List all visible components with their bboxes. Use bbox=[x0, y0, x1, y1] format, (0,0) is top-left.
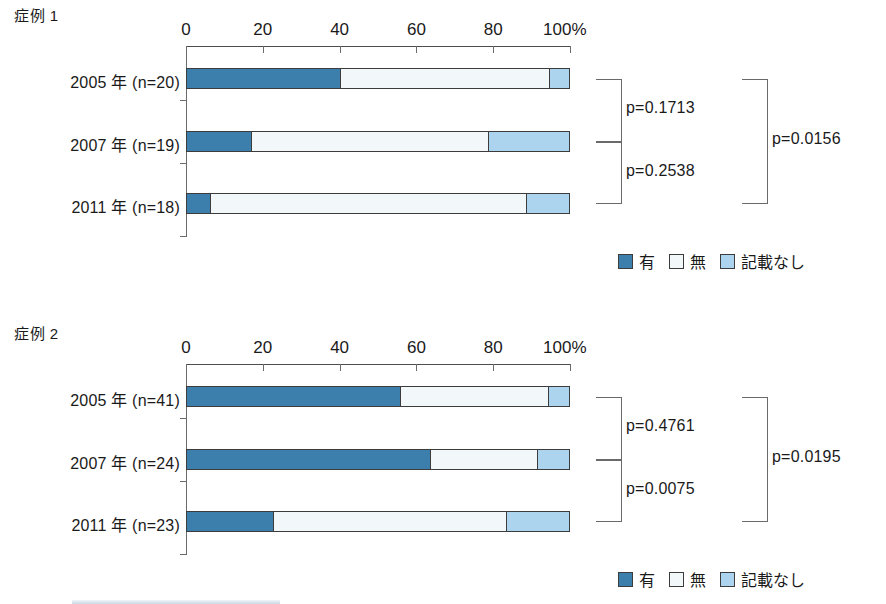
stacked-bar bbox=[186, 449, 570, 470]
x-axis-tick-label: 40 bbox=[330, 20, 349, 40]
category-label: 2011 年 (n=18) bbox=[4, 194, 180, 218]
bar-segment-present bbox=[187, 512, 273, 531]
legend-swatch-unstated bbox=[720, 572, 735, 587]
legend-label: 無 bbox=[690, 567, 706, 591]
x-axis-line bbox=[186, 46, 570, 47]
plot-area: 020406080100%2005 年 (n=41)2007 年 (n=24)2… bbox=[0, 318, 886, 604]
x-axis-tick bbox=[416, 364, 417, 371]
pvalue-bracket-overall bbox=[742, 79, 768, 204]
legend-swatch-absent bbox=[669, 254, 684, 269]
bar-segment-absent bbox=[430, 450, 539, 469]
x-axis-tick-labels: 020406080100% bbox=[186, 20, 570, 40]
bar-segment-unstated bbox=[527, 194, 569, 213]
x-axis-tick bbox=[493, 46, 494, 53]
x-axis-tick-label: 80 bbox=[484, 338, 503, 358]
bar-segment-absent bbox=[251, 132, 489, 151]
bar-segment-unstated bbox=[549, 387, 569, 406]
category-label: 2007 年 (n=24) bbox=[4, 450, 180, 474]
x-axis-tick-label: 60 bbox=[407, 338, 426, 358]
legend-item: 無 bbox=[669, 567, 706, 591]
x-axis-tick-label: 40 bbox=[330, 338, 349, 358]
legend-item: 記載なし bbox=[720, 249, 805, 273]
legend-item: 有 bbox=[618, 249, 655, 273]
bar-segment-absent bbox=[273, 512, 508, 531]
y-axis-tick bbox=[180, 481, 187, 482]
chart-panel-1: 症例 1 020406080100%2005 年 (n=20)2007 年 (n… bbox=[0, 0, 886, 300]
pvalue-label-overall: p=0.0156 bbox=[772, 130, 841, 148]
y-axis-tick bbox=[180, 163, 187, 164]
legend-item: 有 bbox=[618, 567, 655, 591]
category-label: 2011 年 (n=23) bbox=[4, 512, 180, 536]
legend-swatch-absent bbox=[669, 572, 684, 587]
bar-segment-unstated bbox=[489, 132, 569, 151]
x-axis-tick bbox=[570, 364, 571, 371]
bar-segment-unstated bbox=[538, 450, 569, 469]
x-axis-tick-label: 100% bbox=[543, 338, 586, 358]
stacked-bar bbox=[186, 511, 570, 532]
bar-segment-unstated bbox=[550, 69, 569, 88]
x-axis-tick-label: 20 bbox=[253, 338, 272, 358]
legend: 有無記載なし bbox=[618, 249, 805, 273]
legend-swatch-unstated bbox=[720, 254, 735, 269]
x-axis-tick-label: 100% bbox=[543, 20, 586, 40]
x-axis-tick-label: 80 bbox=[484, 20, 503, 40]
legend-label: 有 bbox=[639, 249, 655, 273]
bar-segment-present bbox=[187, 194, 210, 213]
x-axis-tick bbox=[340, 364, 341, 371]
category-label: 2007 年 (n=19) bbox=[4, 132, 180, 156]
x-axis-tick bbox=[416, 46, 417, 53]
x-axis-tick-label: 60 bbox=[407, 20, 426, 40]
bar-segment-present bbox=[187, 387, 400, 406]
bar-segment-absent bbox=[210, 194, 527, 213]
y-axis-tick bbox=[180, 418, 187, 419]
legend-item: 無 bbox=[669, 249, 706, 273]
legend-item: 記載なし bbox=[720, 567, 805, 591]
plot-area: 020406080100%2005 年 (n=20)2007 年 (n=19)2… bbox=[0, 0, 886, 300]
pvalue-bracket-bottom bbox=[596, 460, 622, 522]
x-axis-tick-label: 20 bbox=[253, 20, 272, 40]
pvalue-bracket-overall bbox=[742, 397, 768, 522]
chart-panel-2: 症例 2 020406080100%2005 年 (n=41)2007 年 (n… bbox=[0, 318, 886, 604]
legend-label: 記載なし bbox=[741, 567, 805, 591]
legend-label: 記載なし bbox=[741, 249, 805, 273]
bar-segment-absent bbox=[340, 69, 550, 88]
page-edge-artifact bbox=[72, 600, 280, 604]
pvalue-label-top: p=0.4761 bbox=[626, 417, 695, 435]
category-label: 2005 年 (n=20) bbox=[4, 69, 180, 93]
y-axis-tick bbox=[180, 236, 187, 237]
pvalue-bracket-bottom bbox=[596, 142, 622, 204]
legend-label: 有 bbox=[639, 567, 655, 591]
x-axis-tick-labels: 020406080100% bbox=[186, 338, 570, 358]
stacked-bar bbox=[186, 386, 570, 407]
x-axis-tick bbox=[493, 364, 494, 371]
bar-segment-present bbox=[187, 69, 340, 88]
x-axis-tick bbox=[263, 364, 264, 371]
x-axis-tick-label: 0 bbox=[181, 338, 190, 358]
bar-segment-absent bbox=[400, 387, 549, 406]
y-axis-tick bbox=[180, 554, 187, 555]
x-axis-line bbox=[186, 364, 570, 365]
pvalue-bracket-top bbox=[596, 79, 622, 142]
pvalue-label-overall: p=0.0195 bbox=[772, 448, 841, 466]
x-axis-tick-label: 0 bbox=[181, 20, 190, 40]
pvalue-label-bottom: p=0.2538 bbox=[626, 162, 695, 180]
pvalue-label-top: p=0.1713 bbox=[626, 99, 695, 117]
legend: 有無記載なし bbox=[618, 567, 805, 591]
stacked-bar bbox=[186, 68, 570, 89]
category-label: 2005 年 (n=41) bbox=[4, 387, 180, 411]
pvalue-bracket-top bbox=[596, 397, 622, 460]
x-axis-tick bbox=[340, 46, 341, 53]
x-axis-tick bbox=[263, 46, 264, 53]
stacked-bar bbox=[186, 131, 570, 152]
pvalue-label-bottom: p=0.0075 bbox=[626, 480, 695, 498]
legend-label: 無 bbox=[690, 249, 706, 273]
bar-segment-present bbox=[187, 450, 430, 469]
bar-segment-unstated bbox=[507, 512, 569, 531]
y-axis-tick bbox=[180, 100, 187, 101]
stacked-bar bbox=[186, 193, 570, 214]
x-axis-tick bbox=[570, 46, 571, 53]
legend-swatch-present bbox=[618, 572, 633, 587]
bar-segment-present bbox=[187, 132, 251, 151]
legend-swatch-present bbox=[618, 254, 633, 269]
